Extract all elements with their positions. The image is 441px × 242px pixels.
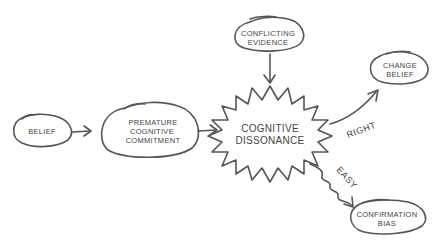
- node-label: CONFIRMATION: [357, 210, 418, 219]
- starburst-shape: [208, 86, 332, 182]
- node-label: BIAS: [378, 219, 396, 228]
- arrow-belief-to-premature: [72, 126, 91, 136]
- node-label: CONFLICTING: [241, 29, 295, 38]
- arrow-conflicting-to-dissonance: [264, 54, 275, 83]
- node-belief: BELIEF: [14, 114, 72, 146]
- node-cognitive-dissonance: COGNITIVE DISSONANCE: [208, 86, 332, 182]
- node-label: COGNITIVE: [130, 127, 174, 136]
- edge-label-easy: EASY: [335, 165, 360, 191]
- node-label: CHANGE: [383, 61, 417, 70]
- sketch-stroke: [124, 104, 145, 109]
- arrow-right-path: RIGHT: [330, 90, 378, 140]
- node-label: COMMITMENT: [126, 136, 181, 145]
- edge-label-right: RIGHT: [345, 120, 377, 140]
- node-label: BELIEF: [28, 127, 56, 136]
- node-label: EVIDENCE: [248, 38, 289, 47]
- node-conflicting-evidence: CONFLICTING EVIDENCE: [235, 16, 304, 51]
- node-label: BELIEF: [386, 70, 414, 79]
- diagram-canvas: BELIEF PREMATURE COGNITIVE COMMITMENT CO…: [0, 0, 441, 242]
- node-confirmation-bias: CONFIRMATION BIAS: [351, 200, 426, 234]
- node-premature-commitment: PREMATURE COGNITIVE COMMITMENT: [101, 102, 198, 157]
- node-label: DISSONANCE: [235, 135, 304, 146]
- node-label: COGNITIVE: [241, 123, 299, 134]
- arrow-easy-path: EASY: [310, 164, 359, 207]
- node-change-belief: CHANGE BELIEF: [370, 51, 428, 84]
- sketch-stroke: [22, 115, 33, 119]
- node-label: PREMATURE: [128, 118, 177, 127]
